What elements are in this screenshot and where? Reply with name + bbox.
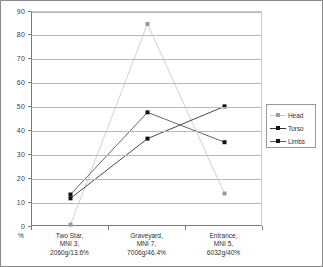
- grid-line: [32, 131, 261, 132]
- grid-line: [32, 35, 261, 36]
- x-category-label-line: MNI 5,: [185, 240, 263, 248]
- legend-item-limbs[interactable]: Limbs: [267, 135, 315, 148]
- x-category-label-line: MNI 7,: [108, 240, 186, 248]
- y-tick-label: 20: [1, 175, 25, 182]
- grid-line: [32, 155, 261, 156]
- y-tick-label: 80: [1, 31, 25, 38]
- x-category-label-line: MNI 3,: [31, 240, 109, 248]
- y-tick-label: 10: [1, 199, 25, 206]
- series-layer: [32, 12, 263, 227]
- y-axis-unit-label: %: [18, 232, 24, 240]
- x-category-label: Two Star,MNI 3,2060g/13.6%: [31, 232, 109, 257]
- series-line-torso: [71, 106, 225, 198]
- data-point-limbs: [146, 110, 150, 114]
- y-tick-label: 60: [1, 79, 25, 86]
- y-tick-label: 0: [1, 223, 25, 230]
- y-tick-label: 30: [1, 151, 25, 158]
- y-tick-mark: [28, 178, 31, 179]
- y-tick-mark: [28, 82, 31, 83]
- grid-line: [32, 83, 261, 84]
- data-point-head: [223, 192, 227, 196]
- data-point-limbs: [69, 193, 73, 197]
- grid-line: [32, 59, 261, 60]
- legend-label: Limbs: [286, 138, 305, 145]
- grid-line: [32, 12, 261, 13]
- legend-label: Torso: [286, 125, 304, 132]
- x-category-label: Graveyard,MNI 7,7006g/46.4%: [108, 232, 186, 257]
- chart-figure: 0102030405060708090 Two Star,MNI 3,2060g…: [0, 0, 323, 267]
- data-point-torso: [146, 137, 150, 141]
- plot-area: [31, 11, 262, 226]
- x-tick-mark: [185, 226, 186, 230]
- legend-marker-icon: [270, 137, 286, 146]
- legend-item-torso[interactable]: Torso: [267, 122, 315, 135]
- x-tick-mark: [31, 226, 32, 230]
- grid-line: [32, 107, 261, 108]
- y-tick-mark: [28, 58, 31, 59]
- series-line-head: [71, 24, 225, 225]
- y-tick-mark: [28, 11, 31, 12]
- legend-marker-icon: [270, 124, 286, 133]
- x-category-label: Entrance,MNI 5,6032g/40%: [185, 232, 263, 257]
- x-category-label-line: Entrance,: [185, 232, 263, 240]
- x-tick-mark: [262, 226, 263, 230]
- legend-label: Head: [286, 112, 303, 119]
- legend-item-head[interactable]: Head: [267, 109, 315, 122]
- y-tick-label: 90: [1, 8, 25, 15]
- y-tick-mark: [28, 202, 31, 203]
- grid-line: [32, 179, 261, 180]
- x-category-label-line: 2060g/13.6%: [31, 249, 109, 257]
- y-tick-mark: [28, 154, 31, 155]
- series-line-limbs: [71, 112, 225, 194]
- x-category-label-line: Two Star,: [31, 232, 109, 240]
- y-tick-mark: [28, 130, 31, 131]
- y-tick-label: 40: [1, 127, 25, 134]
- data-point-limbs: [223, 140, 227, 144]
- legend-marker-icon: [270, 111, 286, 120]
- y-tick-mark: [28, 34, 31, 35]
- x-category-label-line: 6032g/40%: [185, 249, 263, 257]
- x-category-label-line: 7006g/46.4%: [108, 249, 186, 257]
- y-tick-mark: [28, 106, 31, 107]
- y-tick-label: 70: [1, 55, 25, 62]
- y-tick-label: 50: [1, 103, 25, 110]
- data-point-head: [69, 223, 73, 227]
- data-point-torso: [69, 196, 73, 200]
- x-category-label-line: Graveyard,: [108, 232, 186, 240]
- x-tick-mark: [108, 226, 109, 230]
- data-point-head: [146, 22, 150, 26]
- grid-line: [32, 203, 261, 204]
- chart-legend: HeadTorsoLimbs: [266, 104, 316, 148]
